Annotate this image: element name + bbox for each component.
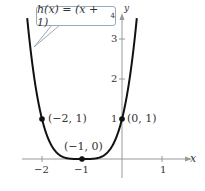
- point-m1-0: [79, 156, 85, 162]
- y-axis-arrow-icon: [120, 13, 125, 20]
- x-tick-1: 1: [160, 165, 166, 175]
- x-axis-label: x: [190, 153, 196, 164]
- y-axis-label: y: [124, 4, 129, 13]
- y-tick-3: 3: [111, 34, 117, 44]
- y-tick-1: 1: [111, 114, 117, 124]
- point-0-1: [119, 116, 125, 122]
- point-m2-1: [39, 116, 45, 122]
- function-callout: h(x) = (x + 1)4: [36, 6, 116, 26]
- point-label-m2-1: (−2, 1): [48, 113, 87, 124]
- point-label-0-1: (0, 1): [127, 113, 157, 124]
- x-tick-m1: −1: [74, 165, 89, 175]
- point-label-m1-0: (−1, 0): [64, 141, 103, 152]
- x-tick-m2: −2: [34, 165, 49, 175]
- y-tick-2: 2: [111, 74, 117, 84]
- function-exponent: 4: [111, 12, 115, 20]
- function-label: h(x) = (x + 1): [37, 3, 111, 29]
